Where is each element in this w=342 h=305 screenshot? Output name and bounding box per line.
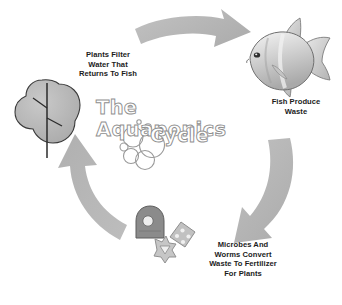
caption-microbes-line-2: Worms Convert	[180, 250, 306, 260]
caption-microbes-line-4: For Plants	[180, 269, 306, 279]
caption-plants-line-1: Plants Filter	[52, 50, 164, 60]
caption-plants: Plants Filter Water That Returns To Fish	[52, 50, 164, 79]
caption-microbes-line-1: Microbes And	[180, 240, 306, 250]
caption-fish-line-1: Fish Produce	[255, 97, 337, 107]
caption-plants-line-2: Water That	[52, 60, 164, 70]
title-line-2: Cycle	[150, 124, 209, 146]
microbe-icon-star	[154, 236, 176, 263]
diagram-title: The Aquaponics Cycle	[92, 96, 257, 158]
microbe-icon-dark	[136, 206, 164, 238]
caption-microbes: Microbes And Worms Convert Waste To Fert…	[180, 240, 306, 278]
fish-icon	[247, 18, 330, 97]
caption-fish-line-2: Waste	[255, 107, 337, 117]
aquaponics-cycle-diagram: The Aquaponics Cycle Plants Filter Water…	[0, 0, 342, 305]
caption-fish: Fish Produce Waste	[255, 97, 337, 116]
caption-microbes-line-3: Waste To Fertilizer	[180, 259, 306, 269]
caption-plants-line-3: Returns To Fish	[52, 69, 164, 79]
arrow-top-plants-to-fish	[135, 9, 251, 47]
